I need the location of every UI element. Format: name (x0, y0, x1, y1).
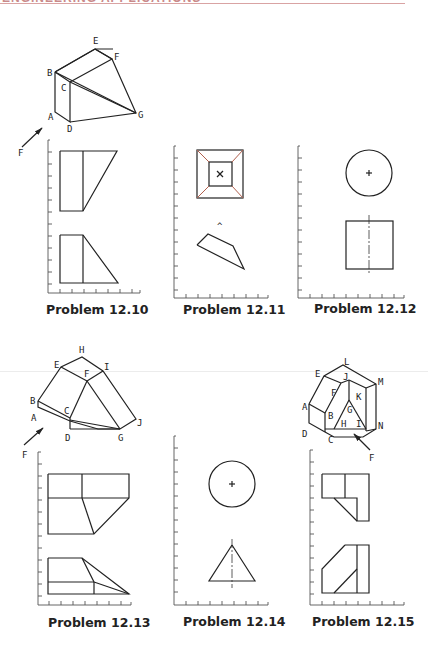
p1215-views (310, 450, 404, 605)
view-arrow (22, 128, 42, 147)
label-i: I (104, 362, 109, 372)
caption-problem-12-11: Problem 12.11 (183, 302, 286, 317)
caption-problem-12-13: Problem 12.13 (48, 615, 151, 630)
label-g: G (347, 405, 352, 415)
label-j: J (343, 372, 348, 382)
problem-drawings: B C A D E F G F (0, 0, 428, 655)
p1215-pictorial: A B C D E F G H I J K L M N F (302, 357, 384, 463)
p1210-views (48, 140, 140, 293)
caption-problem-12-12: Problem 12.12 (314, 301, 417, 316)
label-e: E (93, 36, 98, 46)
label-i: I (356, 419, 361, 429)
label-c: C (64, 406, 69, 416)
label-m: M (378, 377, 384, 387)
label-n: N (378, 421, 383, 431)
view-arrow (24, 428, 43, 445)
label-c: C (328, 435, 333, 445)
label-g: G (138, 110, 143, 120)
caption-problem-12-10: Problem 12.10 (46, 302, 149, 317)
label-a: A (48, 112, 54, 122)
caption-problem-12-15: Problem 12.15 (312, 614, 415, 629)
label-b: B (30, 396, 35, 406)
p1213-pictorial: B A C D E F G H I J F (22, 345, 142, 460)
label-d: D (65, 433, 70, 443)
axis-label-f: F (22, 450, 27, 460)
label-b: B (328, 411, 333, 421)
label-e: E (315, 369, 320, 379)
label-e: E (54, 360, 59, 370)
label-d: D (67, 124, 72, 134)
p1210-pictorial: B C A D E F G F (18, 36, 143, 158)
p1212-views (298, 146, 404, 298)
label-l: L (344, 357, 349, 367)
caret-mark: ^ (217, 221, 223, 231)
p1214-views (174, 436, 268, 605)
label-a: A (302, 402, 308, 412)
label-h: H (341, 419, 346, 429)
label-c: C (61, 83, 66, 93)
label-j: J (137, 418, 142, 428)
caption-problem-12-14: Problem 12.14 (183, 614, 286, 629)
p1213-views (38, 452, 131, 605)
label-f: F (331, 388, 336, 398)
label-h: H (79, 345, 84, 355)
label-f: F (114, 52, 119, 62)
arrow-label: F (369, 453, 374, 463)
arrow-label: F (18, 148, 23, 158)
label-d: D (302, 429, 307, 439)
label-f: F (84, 369, 89, 379)
label-g: G (118, 433, 123, 443)
label-b: B (47, 68, 52, 78)
label-k: K (356, 392, 362, 402)
label-a: A (31, 413, 37, 423)
p1211-views: ^ (174, 146, 268, 298)
